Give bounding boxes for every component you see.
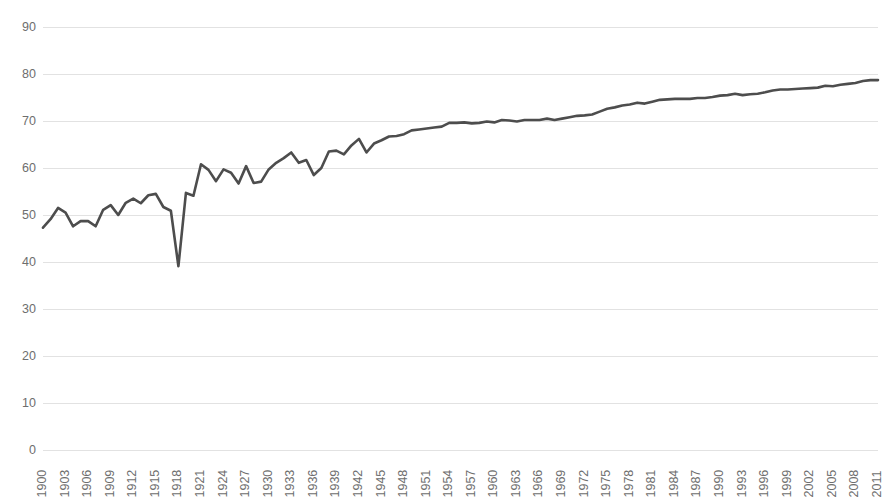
x-tick-label: 1981 [645,469,658,497]
x-tick-label: 1906 [81,469,94,497]
x-axis: 1900190319061909191219151918192119241927… [0,450,881,501]
y-tick-label: 70 [0,115,36,128]
x-tick-label: 1966 [532,469,545,497]
x-tick-label: 2005 [825,469,838,497]
x-tick-label: 1963 [509,469,522,497]
x-tick-label: 1903 [58,469,71,497]
x-tick-label: 1927 [239,469,252,497]
x-tick-label: 1960 [487,469,500,497]
y-tick-label: 50 [0,209,36,222]
x-tick-label: 1936 [306,469,319,497]
x-tick-label: 1912 [126,469,139,497]
line-series [43,27,878,450]
x-tick-label: 1948 [397,469,410,497]
y-tick-label: 30 [0,303,36,316]
plot-area [43,27,878,450]
y-tick-label: 90 [0,21,36,34]
x-tick-label: 1984 [667,469,680,497]
x-tick-label: 2008 [848,469,861,497]
y-tick-label: 80 [0,68,36,81]
x-tick-label: 1924 [216,469,229,497]
x-tick-label: 1993 [735,469,748,497]
x-tick-label: 1930 [261,469,274,497]
x-tick-label: 2011 [871,470,884,497]
x-tick-label: 1939 [329,469,342,497]
x-tick-label: 1933 [284,469,297,497]
x-tick-label: 1945 [374,469,387,497]
x-tick-label: 1918 [171,469,184,497]
x-tick-label: 1999 [780,469,793,497]
y-tick-label: 10 [0,397,36,410]
line-path [43,80,878,266]
y-tick-label: 60 [0,162,36,175]
x-tick-label: 2002 [803,469,816,497]
x-tick-label: 1987 [690,469,703,497]
x-tick-label: 1969 [555,469,568,497]
x-tick-label: 1951 [419,469,432,497]
x-tick-label: 1990 [713,469,726,497]
x-tick-label: 1975 [600,469,613,497]
x-tick-label: 1978 [622,469,635,497]
x-tick-label: 1900 [36,469,49,497]
x-tick-label: 1915 [148,469,161,497]
x-tick-label: 1996 [758,469,771,497]
y-tick-label: 40 [0,256,36,269]
x-tick-label: 1954 [442,469,455,497]
x-tick-label: 1957 [464,469,477,497]
x-tick-label: 1921 [193,469,206,497]
y-tick-label: 20 [0,350,36,363]
x-tick-label: 1972 [577,469,590,497]
x-tick-label: 1909 [103,469,116,497]
x-tick-label: 1942 [351,469,364,497]
